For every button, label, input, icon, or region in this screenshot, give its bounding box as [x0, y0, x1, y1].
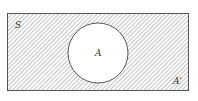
- venn-diagram: S A A': [0, 0, 198, 101]
- complement-label: A': [172, 76, 182, 86]
- set-a-label: A: [94, 48, 102, 58]
- universe-label: S: [15, 20, 21, 30]
